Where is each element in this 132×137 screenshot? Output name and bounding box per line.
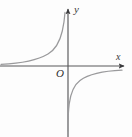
curve-branch-quadrant-2 bbox=[1, 13, 65, 65]
graph-canvas bbox=[0, 0, 132, 137]
curve-branch-quadrant-4 bbox=[68, 70, 122, 131]
y-axis-label: y bbox=[74, 4, 79, 15]
origin-label: O bbox=[56, 68, 64, 79]
hyperbola-figure: y x O bbox=[0, 0, 132, 137]
x-axis-label: x bbox=[116, 52, 120, 62]
